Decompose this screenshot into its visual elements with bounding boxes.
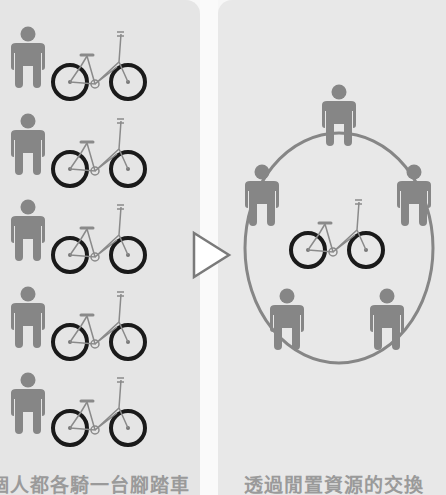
- person-icon-right: [397, 165, 431, 227]
- person-icon-left: [245, 165, 279, 227]
- diagram-canvas: [0, 0, 446, 495]
- person-icon: [11, 27, 45, 89]
- person-icon-bottom-left: [270, 289, 304, 351]
- person-icon: [11, 373, 45, 435]
- bicycle-icon: [53, 119, 145, 186]
- left-row-5: [11, 373, 145, 446]
- shared-bicycle-icon: [291, 200, 383, 267]
- triangle-arrow-right-icon: [194, 233, 229, 277]
- left-row-4: [11, 287, 145, 360]
- bicycle-icon: [53, 205, 145, 272]
- left-row-2: [11, 114, 145, 187]
- left-caption: 個人都各騎一台腳踏車: [0, 470, 190, 495]
- person-icon-bottom-right: [370, 289, 404, 351]
- bicycle-icon: [53, 32, 145, 99]
- right-caption: 透過閒置資源的交換: [244, 470, 424, 495]
- person-icon: [11, 200, 45, 262]
- bicycle-icon: [53, 378, 145, 445]
- bicycle-icon: [53, 292, 145, 359]
- person-icon-top: [322, 85, 356, 147]
- person-icon: [11, 287, 45, 349]
- person-icon: [11, 114, 45, 176]
- left-row-1: [11, 27, 145, 100]
- left-row-3: [11, 200, 145, 273]
